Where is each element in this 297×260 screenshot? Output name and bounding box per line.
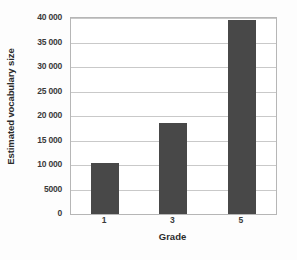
bar-series [71, 18, 276, 214]
bar [91, 163, 119, 214]
y-axis-tick-label: 0 [57, 208, 62, 218]
x-axis-tick-label: 5 [227, 215, 255, 225]
y-axis-tick-label: 25 000 [37, 86, 62, 96]
y-axis-tick-label: 20 000 [37, 110, 62, 120]
x-axis-tick-label: 3 [158, 215, 186, 225]
plot-area [70, 17, 277, 215]
bar-chart-figure: Estimated vocabulary size 0500010 00015 … [0, 0, 297, 260]
x-axis-tick-labels: 135 [70, 215, 275, 229]
x-axis-title: Grade [70, 231, 275, 242]
y-axis-tick-labels: 0500010 00015 00020 00025 00030 00035 00… [18, 0, 66, 260]
y-axis-title-text: Estimated vocabulary size [5, 48, 16, 164]
y-axis-tick-label: 40 000 [37, 12, 62, 22]
bar [228, 20, 256, 214]
y-axis-tick-label: 30 000 [37, 61, 62, 71]
y-axis-tick-label: 15 000 [37, 135, 62, 145]
x-axis-tick-label: 1 [90, 215, 118, 225]
bar [159, 123, 187, 214]
y-axis-tick-label: 5000 [44, 184, 62, 194]
y-axis-title: Estimated vocabulary size [0, 0, 20, 213]
y-axis-tick-label: 10 000 [37, 159, 62, 169]
y-axis-tick-label: 35 000 [37, 37, 62, 47]
